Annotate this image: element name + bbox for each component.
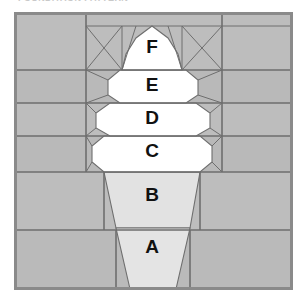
- piecing-block-diagram: F E D C B A: [0, 0, 305, 299]
- diagram-canvas: FOUNDATION PATTERN: [0, 0, 305, 299]
- segment-label-A: A: [145, 236, 159, 257]
- segment-label-F: F: [146, 36, 158, 57]
- segment-label-E: E: [146, 74, 159, 95]
- segment-label-B: B: [145, 184, 159, 205]
- segment-label-D: D: [145, 107, 159, 128]
- segment-label-C: C: [145, 140, 159, 161]
